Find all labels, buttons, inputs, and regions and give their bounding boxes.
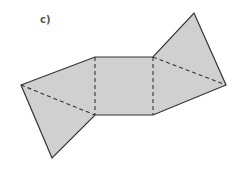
net-diagram [0,0,239,173]
net-outline [21,13,226,158]
